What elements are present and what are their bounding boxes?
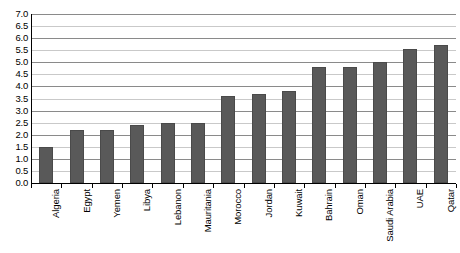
x-axis-tick [152, 184, 153, 188]
x-axis-tick [244, 184, 245, 188]
bar [343, 67, 357, 183]
x-axis-category-label: Algeria [50, 189, 61, 218]
y-axis-tick-label: 7.0 [0, 9, 28, 18]
bar [252, 94, 266, 183]
y-axis-tick-label: 6.0 [0, 33, 28, 42]
x-axis-tick [335, 184, 336, 188]
x-axis-tick [426, 184, 427, 188]
bar [191, 123, 205, 183]
bar [434, 45, 448, 183]
y-axis-tick-label: 0.0 [0, 178, 28, 187]
x-axis-category-labels: AlgeriaEgyptYemenLibyaLebanonMauritaniaM… [31, 189, 456, 253]
x-axis-category-label: Libya [141, 189, 152, 211]
x-axis-tick [92, 184, 93, 188]
y-axis-tick-label: 0.5 [0, 166, 28, 175]
bar [403, 49, 417, 183]
y-axis-tick-label: 5.0 [0, 57, 28, 66]
y-axis-tick-label: 3.0 [0, 106, 28, 115]
x-axis-category-label: UAE [414, 189, 425, 208]
bar [130, 125, 144, 183]
bar [161, 123, 175, 183]
y-axis-tick-labels: 7.06.56.05.55.04.54.03.53.02.52.01.51.00… [0, 0, 28, 253]
x-axis-category-label: Bahrain [323, 189, 334, 221]
x-axis-category-label: Jordan [263, 189, 274, 217]
bar-series [31, 14, 456, 183]
x-axis-tick [31, 184, 32, 188]
x-axis-category-label: Morocco [232, 189, 243, 225]
bar-chart: 7.06.56.05.55.04.54.03.53.02.52.01.51.00… [0, 0, 460, 253]
bar [373, 62, 387, 183]
y-axis-tick-label: 4.0 [0, 81, 28, 90]
y-axis-tick-label: 1.5 [0, 142, 28, 151]
bar [39, 147, 53, 183]
x-axis-category-label: Yemen [111, 189, 122, 218]
y-axis-tick-label: 2.0 [0, 130, 28, 139]
x-axis-tick [304, 184, 305, 188]
x-axis-category-label: Qatar [445, 189, 456, 212]
bar [100, 130, 114, 183]
y-axis-tick-label: 4.5 [0, 69, 28, 78]
y-axis-tick-label: 3.5 [0, 94, 28, 103]
x-axis-tick [61, 184, 62, 188]
x-axis-category-label: Mauritania [202, 189, 213, 232]
x-axis-category-label: Saudi Arabia [384, 189, 395, 242]
x-axis-tick [365, 184, 366, 188]
bar [312, 67, 326, 183]
y-axis-tick-label: 2.5 [0, 118, 28, 127]
x-axis-ticks [31, 184, 456, 188]
x-axis-category-label: Lebanon [172, 189, 183, 225]
x-axis-tick [183, 184, 184, 188]
y-axis-tick-label: 5.5 [0, 45, 28, 54]
bar [70, 130, 84, 183]
y-axis-tick-label: 6.5 [0, 21, 28, 30]
bar [221, 96, 235, 183]
x-axis-tick [122, 184, 123, 188]
y-axis-tick-label: 1.0 [0, 154, 28, 163]
x-axis-tick [395, 184, 396, 188]
x-axis-category-label: Oman [354, 189, 365, 214]
x-axis-tick [213, 184, 214, 188]
x-axis-category-label: Kuwait [293, 189, 304, 217]
x-axis-category-label: Egypt [81, 189, 92, 213]
x-axis-tick [456, 184, 457, 188]
bar [282, 91, 296, 183]
x-axis-tick [274, 184, 275, 188]
